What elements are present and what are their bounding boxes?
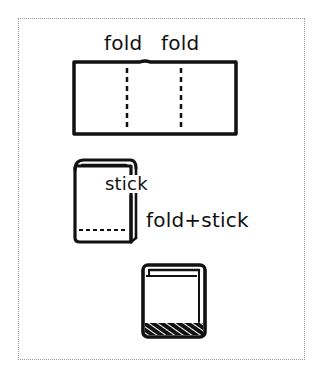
fold-label-right: fold <box>161 33 199 53</box>
fold-stick-label: fold+stick <box>146 210 249 230</box>
fold-label-left: fold <box>104 33 142 53</box>
diagram-canvas <box>0 0 324 369</box>
hatched-glue-strip <box>145 323 203 335</box>
stick-label: stick <box>104 175 149 193</box>
flat-sheet <box>74 61 236 134</box>
finished-book <box>143 265 205 337</box>
